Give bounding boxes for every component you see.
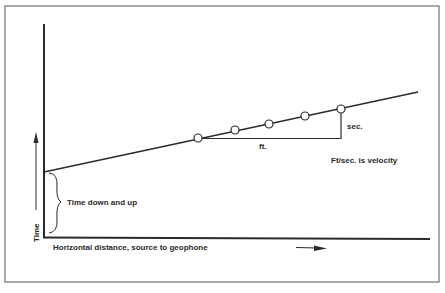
rise-label: sec. [347,122,363,131]
y-axis-label: Time [32,223,41,242]
intercept-label: Time down and up [67,198,137,207]
geophone-points [194,105,345,142]
right-arrow-icon [314,246,327,252]
brace-icon [49,173,61,233]
geophone-point [337,105,345,113]
geophone-point [265,120,273,128]
velocity-note: Ft/sec. is velocity [331,156,398,165]
geophone-point [231,126,239,134]
up-arrow-icon [34,132,39,143]
x-axis-label: Horizontal distance, source to geophone [53,243,208,252]
x-axis [43,238,430,240]
run-label: ft. [259,142,267,151]
outer-frame [5,6,439,282]
geophone-point [194,134,202,142]
geophone-point [301,112,309,120]
seismic-diagram: sec. ft. Ft/sec. is velocity Time down a… [0,0,445,293]
